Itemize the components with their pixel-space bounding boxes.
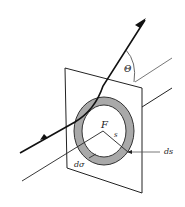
impact-parameter-label: s xyxy=(114,131,118,139)
focus-label: F xyxy=(100,119,109,130)
ring-inner xyxy=(82,105,126,157)
cross-section-label: dσ xyxy=(74,160,85,169)
axis-line-back-lower xyxy=(142,88,172,107)
ring-width-label: ds xyxy=(164,147,173,156)
axis-line-back-upper xyxy=(135,58,172,82)
theta-label: Θ xyxy=(124,64,132,74)
scattering-diagram: Θ F s ds dσ xyxy=(0,0,185,207)
outgoing-arrowhead-icon xyxy=(135,18,146,28)
